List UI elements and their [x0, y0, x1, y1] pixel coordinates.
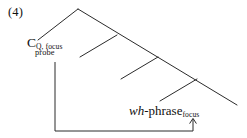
tree-diagram	[0, 0, 247, 138]
branch-node2-left	[121, 57, 158, 79]
c-head-row: CQ, focus	[27, 36, 63, 50]
branch-node1-left	[80, 35, 117, 57]
node-label-wh-phrase: wh-phrasefocus	[129, 104, 199, 117]
wh-main-text: -phrase	[144, 103, 182, 118]
branch-node3-left	[160, 79, 197, 101]
wh-prefix: wh	[129, 103, 144, 118]
agree-arrow-path	[55, 62, 193, 131]
agree-relation-arrow	[55, 62, 196, 131]
c-head-subscript: Q, focus	[36, 42, 63, 51]
wh-subscript: focus	[182, 110, 199, 119]
figure-canvas: (4) CQ, focus probe wh-phrasefocus	[0, 0, 247, 138]
tree-branches	[38, 9, 237, 105]
example-number: (4)	[8, 6, 23, 19]
node-label-complementizer: CQ, focus probe	[27, 36, 63, 58]
